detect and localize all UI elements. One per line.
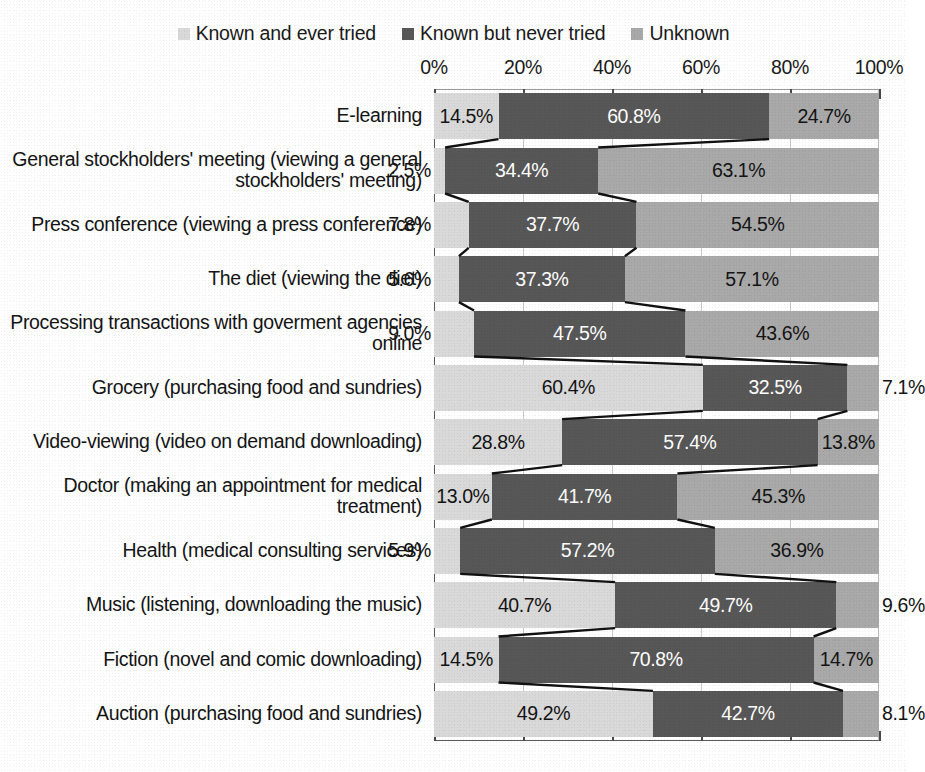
bar-value-label: 47.5% bbox=[553, 322, 606, 345]
x-tick-label-100: 100% bbox=[855, 56, 904, 79]
stacked-bar: 14.5%60.8%24.7% bbox=[434, 93, 879, 139]
bar-value-label: 57.1% bbox=[725, 268, 778, 291]
bar-value-label: 24.7% bbox=[797, 105, 850, 128]
bar-value-label: 60.8% bbox=[607, 105, 660, 128]
tickmark-100 bbox=[879, 731, 881, 741]
bar-row: 9.0%47.5%43.6% bbox=[434, 311, 879, 357]
bar-value-label: 37.7% bbox=[526, 213, 579, 236]
bar-value-label: 9.0% bbox=[388, 322, 431, 345]
x-axis-tick-labels: 0%20%40%60%80%100% bbox=[434, 56, 879, 80]
bar-row: 5.9%57.2%36.9% bbox=[434, 528, 879, 574]
stacked-bar: 7.8%37.7%54.5% bbox=[434, 202, 879, 248]
stacked-bar: 60.4%32.5%7.1% bbox=[434, 365, 879, 411]
connector-line bbox=[562, 411, 703, 419]
connector-line bbox=[677, 465, 817, 473]
connector-line bbox=[460, 574, 615, 582]
category-label-2: Press conference (viewing a press confer… bbox=[8, 198, 422, 252]
connector-line bbox=[474, 357, 703, 365]
bar-value-label: 14.5% bbox=[440, 105, 493, 128]
stacked-bar: 2.5%34.4%63.1% bbox=[434, 148, 879, 194]
bar-segment-2: 8.1% bbox=[843, 691, 879, 737]
bar-row: 13.0%41.7%45.3% bbox=[434, 474, 879, 520]
bar-value-label: 42.7% bbox=[721, 702, 774, 725]
bar-value-label: 13.8% bbox=[822, 431, 875, 454]
bar-value-label: 63.1% bbox=[712, 159, 765, 182]
bar-segment-2: 36.9% bbox=[715, 528, 879, 574]
connector-line bbox=[445, 194, 469, 202]
stacked-bar: 14.5%70.8%14.7% bbox=[434, 637, 879, 683]
bar-segment-1: 70.8% bbox=[499, 637, 814, 683]
connector-line bbox=[625, 248, 637, 256]
bar-value-label: 49.2% bbox=[517, 702, 570, 725]
connector-line bbox=[445, 139, 498, 147]
bar-segment-0: 40.7% bbox=[434, 582, 615, 628]
bar-segment-1: 34.4% bbox=[445, 148, 598, 194]
category-label-11: Auction (purchasing food and sundries) bbox=[8, 687, 422, 741]
bar-segment-0: 7.8% bbox=[434, 202, 469, 248]
bar-segment-2: 63.1% bbox=[598, 148, 879, 194]
bar-value-label: 8.1% bbox=[882, 702, 925, 725]
bar-segment-1: 57.2% bbox=[460, 528, 715, 574]
connector-line bbox=[814, 628, 837, 636]
bar-segment-1: 47.5% bbox=[474, 311, 685, 357]
bar-segment-0: 2.5% bbox=[434, 148, 445, 194]
bar-segment-0: 49.2% bbox=[434, 691, 653, 737]
connector-line bbox=[459, 302, 474, 310]
bar-segment-2: 14.7% bbox=[814, 637, 879, 683]
legend-label-known-never-tried: Known but never tried bbox=[420, 22, 606, 45]
category-label-7: Doctor (making an appointment for medica… bbox=[8, 469, 422, 523]
bar-row: 40.7%49.7%9.6% bbox=[434, 582, 879, 628]
bar-value-label: 40.7% bbox=[498, 594, 551, 617]
connector-line bbox=[598, 139, 769, 147]
bar-value-label: 13.0% bbox=[436, 485, 489, 508]
x-tick-label-20: 20% bbox=[504, 56, 542, 79]
bar-segment-2: 54.5% bbox=[636, 202, 879, 248]
category-label-1: General stockholders' meeting (viewing a… bbox=[8, 143, 422, 197]
category-label-9: Music (listening, downloading the music) bbox=[8, 578, 422, 632]
connector-line bbox=[814, 683, 843, 691]
bar-value-label: 2.5% bbox=[388, 159, 431, 182]
bar-segment-0: 13.0% bbox=[434, 474, 492, 520]
legend-swatch-known-never-tried bbox=[402, 28, 414, 40]
bar-value-label: 28.8% bbox=[471, 431, 524, 454]
bar-segment-0: 14.5% bbox=[434, 93, 499, 139]
bar-value-label: 14.7% bbox=[820, 648, 873, 671]
category-label-3: The diet (viewing the diet) bbox=[8, 252, 422, 306]
stacked-bar: 40.7%49.7%9.6% bbox=[434, 582, 879, 628]
bar-segment-1: 49.7% bbox=[615, 582, 836, 628]
bar-value-label: 49.7% bbox=[699, 594, 752, 617]
x-tick-label-60: 60% bbox=[682, 56, 720, 79]
legend-label-unknown: Unknown bbox=[649, 22, 729, 45]
legend-item-known-never-tried: Known but never tried bbox=[402, 22, 606, 45]
legend-label-known-ever-tried: Known and ever tried bbox=[196, 22, 376, 45]
bar-value-label: 7.1% bbox=[882, 376, 925, 399]
legend-swatch-unknown bbox=[631, 28, 643, 40]
bar-value-label: 32.5% bbox=[748, 376, 801, 399]
legend-item-known-ever-tried: Known and ever tried bbox=[178, 22, 376, 45]
bar-segment-2: 43.6% bbox=[685, 311, 879, 357]
stacked-bar: 5.9%57.2%36.9% bbox=[434, 528, 879, 574]
connector-line bbox=[459, 248, 469, 256]
bar-value-label: 45.3% bbox=[752, 485, 805, 508]
tickmark-100 bbox=[879, 89, 881, 99]
connector-line bbox=[499, 683, 653, 691]
stacked-bar: 49.2%42.7%8.1% bbox=[434, 691, 879, 737]
bar-row: 60.4%32.5%7.1% bbox=[434, 365, 879, 411]
bar-segment-1: 60.8% bbox=[499, 93, 770, 139]
bar-value-label: 57.2% bbox=[561, 539, 614, 562]
bar-segment-0: 9.0% bbox=[434, 311, 474, 357]
category-label-5: Grocery (purchasing food and sundries) bbox=[8, 361, 422, 415]
bar-segment-0: 14.5% bbox=[434, 637, 499, 683]
bar-value-label: 5.6% bbox=[388, 268, 431, 291]
plot-area: 14.5%60.8%24.7%2.5%34.4%63.1%7.8%37.7%54… bbox=[434, 89, 879, 741]
x-tick-label-80: 80% bbox=[771, 56, 809, 79]
bar-segment-1: 37.3% bbox=[459, 256, 625, 302]
legend-swatch-known-ever-tried bbox=[178, 28, 190, 40]
bar-segment-2: 24.7% bbox=[769, 93, 879, 139]
bar-row: 2.5%34.4%63.1% bbox=[434, 148, 879, 194]
bar-segment-1: 37.7% bbox=[469, 202, 637, 248]
category-label-10: Fiction (novel and comic downloading) bbox=[8, 632, 422, 686]
bar-value-label: 37.3% bbox=[515, 268, 568, 291]
bar-segment-0: 60.4% bbox=[434, 365, 703, 411]
